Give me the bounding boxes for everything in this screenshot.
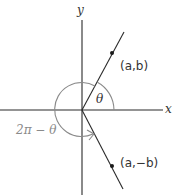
point-upper-label: (a,b) bbox=[120, 60, 148, 72]
angle-reflection-diagram: y x (a,b) (a,−b) θ 2π − θ bbox=[0, 0, 177, 195]
ray-lower bbox=[82, 110, 123, 189]
point-lower-label: (a,−b) bbox=[120, 157, 158, 169]
y-axis-label: y bbox=[77, 4, 84, 16]
point-upper-dot bbox=[110, 51, 114, 55]
reflex-angle-label: 2π − θ bbox=[16, 124, 56, 136]
theta-label: θ bbox=[96, 93, 103, 105]
x-axis-label: x bbox=[165, 103, 172, 115]
point-lower-dot bbox=[110, 164, 114, 168]
